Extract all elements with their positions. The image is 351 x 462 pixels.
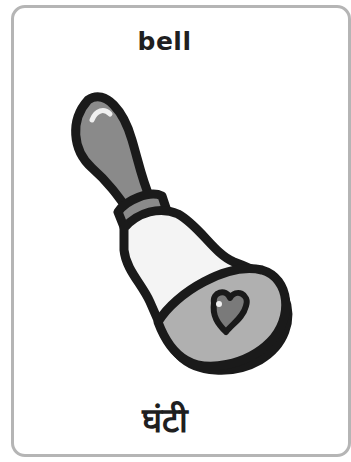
word-hindi: घंटी: [0, 396, 329, 442]
